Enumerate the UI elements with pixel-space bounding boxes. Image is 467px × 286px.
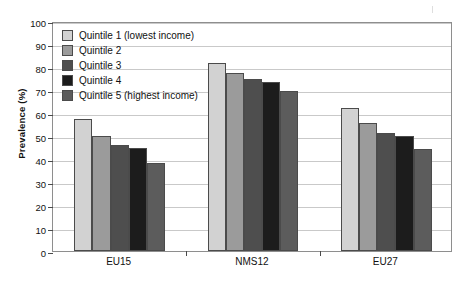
y-tick-mark bbox=[48, 230, 53, 231]
legend-swatch-icon bbox=[62, 45, 73, 56]
bar bbox=[208, 63, 226, 251]
bar bbox=[92, 136, 110, 251]
bar-chart-figure: Prevalence (%) 0102030405060708090100 Qu… bbox=[0, 0, 467, 286]
y-tick-mark bbox=[48, 69, 53, 70]
x-tick-mark bbox=[320, 251, 321, 256]
legend-item: Quintile 5 (highest income) bbox=[62, 88, 198, 102]
legend-label: Quintile 3 bbox=[79, 60, 121, 71]
legend-swatch-icon bbox=[62, 60, 73, 71]
y-tick-label: 50 bbox=[35, 133, 46, 144]
y-tick-label: 70 bbox=[35, 87, 46, 98]
legend-swatch-icon bbox=[62, 30, 73, 41]
legend-label: Quintile 5 (highest income) bbox=[79, 90, 198, 101]
y-tick-mark bbox=[48, 138, 53, 139]
bar bbox=[244, 79, 262, 252]
legend-item: Quintile 1 (lowest income) bbox=[62, 28, 198, 42]
y-tick-label: 20 bbox=[35, 202, 46, 213]
y-tick-mark bbox=[48, 184, 53, 185]
legend-swatch-icon bbox=[62, 75, 73, 86]
x-tick-mark bbox=[186, 251, 187, 256]
y-tick-label: 10 bbox=[35, 225, 46, 236]
legend-label: Quintile 1 (lowest income) bbox=[79, 30, 194, 41]
y-tick-mark bbox=[48, 253, 53, 254]
bar bbox=[111, 145, 129, 251]
y-tick-label: 30 bbox=[35, 179, 46, 190]
x-axis-label-eu15: EU15 bbox=[106, 256, 131, 267]
bar bbox=[262, 82, 280, 251]
y-tick-mark bbox=[48, 115, 53, 116]
bar bbox=[414, 149, 432, 251]
y-axis-title: Prevalence (%) bbox=[16, 49, 27, 199]
y-tick-label: 60 bbox=[35, 110, 46, 121]
bar bbox=[280, 91, 298, 251]
y-tick-label: 40 bbox=[35, 156, 46, 167]
y-tick-label: 100 bbox=[30, 18, 46, 29]
chart-legend: Quintile 1 (lowest income)Quintile 2Quin… bbox=[62, 28, 198, 102]
y-tick-mark bbox=[48, 92, 53, 93]
bar bbox=[359, 123, 377, 251]
bar bbox=[341, 108, 359, 251]
legend-label: Quintile 4 bbox=[79, 75, 121, 86]
x-axis-label-eu27: EU27 bbox=[373, 256, 398, 267]
y-tick-mark bbox=[48, 207, 53, 208]
bar bbox=[74, 119, 92, 251]
y-tick-label: 0 bbox=[41, 248, 46, 259]
legend-item: Quintile 2 bbox=[62, 43, 198, 57]
gridline bbox=[53, 23, 451, 24]
bar bbox=[377, 133, 395, 251]
y-tick-label: 90 bbox=[35, 41, 46, 52]
legend-label: Quintile 2 bbox=[79, 45, 121, 56]
y-tick-mark bbox=[48, 23, 53, 24]
legend-item: Quintile 4 bbox=[62, 73, 198, 87]
bar bbox=[147, 163, 165, 251]
legend-swatch-icon bbox=[62, 90, 73, 101]
legend-item: Quintile 3 bbox=[62, 58, 198, 72]
bar bbox=[395, 136, 413, 251]
scan-artifact bbox=[432, 6, 433, 13]
y-tick-label: 80 bbox=[35, 64, 46, 75]
y-tick-mark bbox=[48, 46, 53, 47]
x-axis-label-nms12: NMS12 bbox=[235, 256, 268, 267]
bar bbox=[226, 73, 244, 251]
y-tick-mark bbox=[48, 161, 53, 162]
bar bbox=[129, 148, 147, 251]
